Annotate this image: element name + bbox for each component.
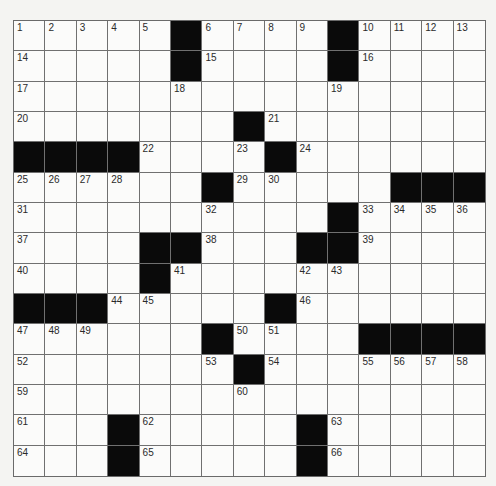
grid-cell[interactable]: [108, 112, 139, 142]
grid-cell[interactable]: 24: [297, 142, 328, 172]
grid-cell[interactable]: [359, 264, 390, 294]
grid-cell[interactable]: [359, 385, 390, 415]
grid-cell[interactable]: [328, 173, 359, 203]
grid-cell[interactable]: [202, 112, 233, 142]
grid-cell[interactable]: [422, 82, 453, 112]
grid-cell[interactable]: [391, 233, 422, 263]
grid-cell[interactable]: [454, 264, 485, 294]
grid-cell[interactable]: [140, 51, 171, 81]
grid-cell[interactable]: [422, 294, 453, 324]
grid-cell[interactable]: [391, 294, 422, 324]
grid-cell[interactable]: 61: [14, 415, 45, 445]
grid-cell[interactable]: 50: [234, 324, 265, 354]
grid-cell[interactable]: 41: [171, 264, 202, 294]
grid-cell[interactable]: 7: [234, 21, 265, 51]
grid-cell[interactable]: [391, 142, 422, 172]
grid-cell[interactable]: 29: [234, 173, 265, 203]
grid-cell[interactable]: [328, 385, 359, 415]
grid-cell[interactable]: [108, 51, 139, 81]
grid-cell[interactable]: [140, 82, 171, 112]
grid-cell[interactable]: 5: [140, 21, 171, 51]
grid-cell[interactable]: 26: [45, 173, 76, 203]
grid-cell[interactable]: [45, 112, 76, 142]
grid-cell[interactable]: 31: [14, 203, 45, 233]
grid-cell[interactable]: [265, 233, 296, 263]
grid-cell[interactable]: [297, 355, 328, 385]
grid-cell[interactable]: [391, 264, 422, 294]
grid-cell[interactable]: [454, 233, 485, 263]
grid-cell[interactable]: 60: [234, 385, 265, 415]
grid-cell[interactable]: 17: [14, 82, 45, 112]
grid-cell[interactable]: 9: [297, 21, 328, 51]
grid-cell[interactable]: [265, 385, 296, 415]
grid-cell[interactable]: 36: [454, 203, 485, 233]
grid-cell[interactable]: [359, 112, 390, 142]
grid-cell[interactable]: 52: [14, 355, 45, 385]
grid-cell[interactable]: [171, 173, 202, 203]
grid-cell[interactable]: 28: [108, 173, 139, 203]
grid-cell[interactable]: [45, 415, 76, 445]
grid-cell[interactable]: [108, 355, 139, 385]
grid-cell[interactable]: [140, 112, 171, 142]
grid-cell[interactable]: 4: [108, 21, 139, 51]
grid-cell[interactable]: [454, 82, 485, 112]
grid-cell[interactable]: [140, 324, 171, 354]
grid-cell[interactable]: [202, 415, 233, 445]
grid-cell[interactable]: [45, 233, 76, 263]
grid-cell[interactable]: [359, 446, 390, 476]
grid-cell[interactable]: [265, 415, 296, 445]
grid-cell[interactable]: 45: [140, 294, 171, 324]
grid-cell[interactable]: [359, 82, 390, 112]
grid-cell[interactable]: [297, 51, 328, 81]
grid-cell[interactable]: [108, 82, 139, 112]
grid-cell[interactable]: [422, 233, 453, 263]
grid-cell[interactable]: 55: [359, 355, 390, 385]
grid-cell[interactable]: [265, 203, 296, 233]
grid-cell[interactable]: [265, 82, 296, 112]
grid-cell[interactable]: 58: [454, 355, 485, 385]
grid-cell[interactable]: [171, 203, 202, 233]
grid-cell[interactable]: [108, 324, 139, 354]
grid-cell[interactable]: 15: [202, 51, 233, 81]
grid-cell[interactable]: [140, 173, 171, 203]
grid-cell[interactable]: [45, 203, 76, 233]
grid-cell[interactable]: 23: [234, 142, 265, 172]
grid-cell[interactable]: [77, 112, 108, 142]
grid-cell[interactable]: 27: [77, 173, 108, 203]
grid-cell[interactable]: 62: [140, 415, 171, 445]
grid-cell[interactable]: [202, 82, 233, 112]
grid-cell[interactable]: [108, 203, 139, 233]
grid-cell[interactable]: [234, 264, 265, 294]
grid-cell[interactable]: 53: [202, 355, 233, 385]
grid-cell[interactable]: [234, 82, 265, 112]
grid-cell[interactable]: [45, 82, 76, 112]
grid-cell[interactable]: 63: [328, 415, 359, 445]
grid-cell[interactable]: 10: [359, 21, 390, 51]
grid-cell[interactable]: [77, 446, 108, 476]
grid-cell[interactable]: 49: [77, 324, 108, 354]
grid-cell[interactable]: [202, 142, 233, 172]
grid-cell[interactable]: [328, 355, 359, 385]
grid-cell[interactable]: 35: [422, 203, 453, 233]
grid-cell[interactable]: 56: [391, 355, 422, 385]
grid-cell[interactable]: [234, 446, 265, 476]
grid-cell[interactable]: 8: [265, 21, 296, 51]
grid-cell[interactable]: 16: [359, 51, 390, 81]
grid-cell[interactable]: [422, 446, 453, 476]
grid-cell[interactable]: 11: [391, 21, 422, 51]
grid-cell[interactable]: [422, 51, 453, 81]
grid-cell[interactable]: [171, 112, 202, 142]
grid-cell[interactable]: [422, 385, 453, 415]
grid-cell[interactable]: [265, 51, 296, 81]
grid-cell[interactable]: [202, 446, 233, 476]
grid-cell[interactable]: 44: [108, 294, 139, 324]
grid-cell[interactable]: [265, 264, 296, 294]
grid-cell[interactable]: 19: [328, 82, 359, 112]
grid-cell[interactable]: 30: [265, 173, 296, 203]
grid-cell[interactable]: [391, 385, 422, 415]
grid-cell[interactable]: [454, 446, 485, 476]
grid-cell[interactable]: [45, 385, 76, 415]
grid-cell[interactable]: [234, 294, 265, 324]
grid-cell[interactable]: 21: [265, 112, 296, 142]
grid-cell[interactable]: [171, 142, 202, 172]
